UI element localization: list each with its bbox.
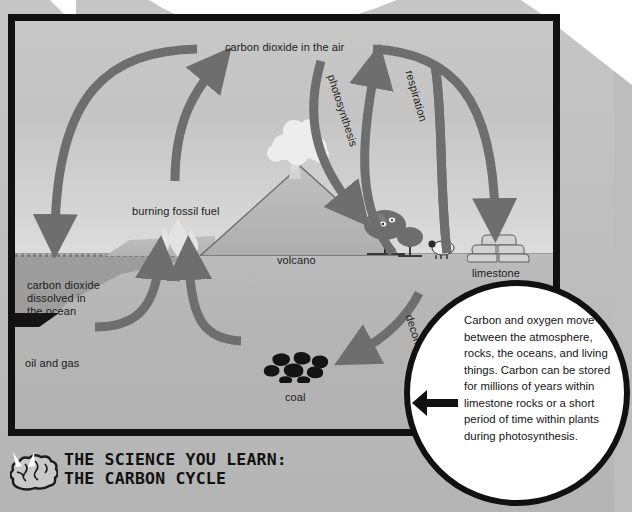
left-arrow-icon: [412, 390, 458, 416]
arrow-coal-to-surface: [189, 261, 241, 341]
label-co2-in-air: carbon dioxide in the air: [225, 41, 344, 54]
arrow-respiration-tail: [435, 65, 447, 253]
brain-icon: [10, 452, 58, 492]
label-oil-and-gas: oil and gas: [25, 357, 79, 370]
arrow-fossil-fuel-to-air: [175, 67, 215, 181]
label-volcano: volcano: [277, 254, 316, 267]
arrow-respiration: [365, 69, 393, 253]
figure-title-block: THE SCIENCE YOU LEARN: THE CARBON CYCLE: [10, 448, 310, 504]
figure-title-line1: THE SCIENCE YOU LEARN:: [64, 450, 287, 469]
callout-text: Carbon and oxygen move between the atmos…: [464, 312, 616, 444]
figure-title: THE SCIENCE YOU LEARN: THE CARBON CYCLE: [64, 450, 287, 488]
label-limestone: limestone: [472, 267, 520, 280]
label-co2-dissolved-ocean: carbon dioxide dissolved in the ocean: [27, 279, 123, 318]
figure-title-line2: THE CARBON CYCLE: [64, 469, 287, 488]
label-coal: coal: [285, 391, 306, 404]
label-burning-fossil-fuel: burning fossil fuel: [132, 205, 220, 218]
